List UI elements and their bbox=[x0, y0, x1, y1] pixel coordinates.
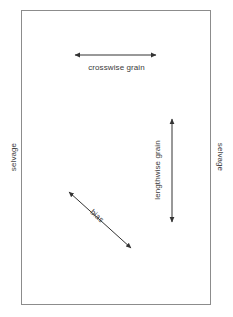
lengthwise-grain-label: lengthwise grain bbox=[153, 140, 162, 199]
selvage-label-left: selvage bbox=[9, 143, 18, 171]
fabric-grain-diagram: crosswise grain lengthwise grain bias se… bbox=[0, 0, 233, 317]
selvage-label-right: selvage bbox=[216, 143, 225, 171]
diagram-canvas bbox=[0, 0, 233, 317]
crosswise-grain-label: crosswise grain bbox=[0, 63, 233, 72]
